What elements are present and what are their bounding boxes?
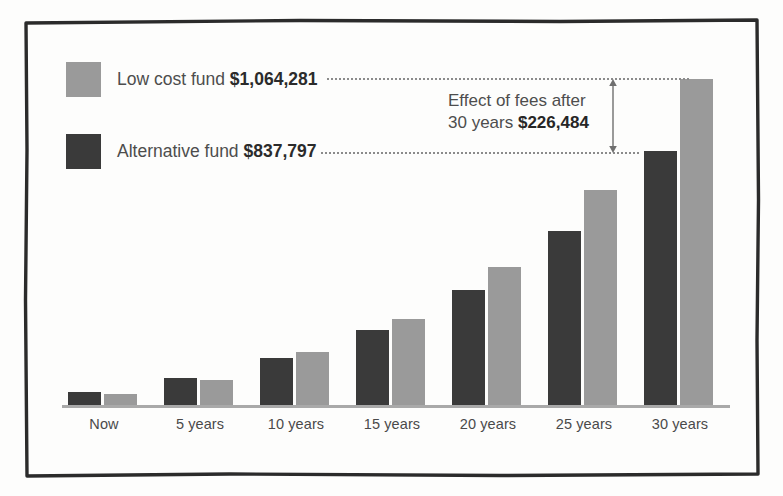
leader-line-low-cost <box>326 78 690 80</box>
bar-lowcost-15-years <box>392 319 425 405</box>
x-label-15-years: 15 years <box>344 416 440 432</box>
annotation-effect-of-fees: Effect of fees after 30 years $226,484 <box>448 90 589 135</box>
x-label-now: Now <box>56 416 152 432</box>
annotation-line-1: Effect of fees after <box>448 90 589 112</box>
chart-container: Now 5 years 10 years 15 years 20 years 2… <box>0 0 783 496</box>
leader-line-alternative <box>320 152 640 154</box>
bar-lowcost-25-years <box>584 190 617 405</box>
legend-item-alternative-fund: Alternative fund $837,797 <box>66 134 316 169</box>
legend-item-low-cost-fund: Low cost fund $1,064,281 <box>66 62 317 97</box>
legend-value-low-cost-fund: $1,064,281 <box>230 69 318 89</box>
bar-alternative-5-years <box>164 378 197 405</box>
x-axis-labels: Now 5 years 10 years 15 years 20 years 2… <box>40 416 745 442</box>
legend-swatch-low-cost-fund <box>66 62 101 97</box>
legend-swatch-alternative-fund <box>66 134 101 169</box>
legend-value-alternative-fund: $837,797 <box>243 141 316 161</box>
legend-name-low-cost-fund: Low cost fund <box>117 69 230 89</box>
legend-label-low-cost-fund: Low cost fund $1,064,281 <box>117 69 317 90</box>
bar-lowcost-5-years <box>200 380 233 405</box>
x-label-10-years: 10 years <box>248 416 344 432</box>
bar-alternative-now <box>68 392 101 405</box>
bar-lowcost-now <box>104 394 137 405</box>
bar-alternative-25-years <box>548 231 581 405</box>
bar-alternative-15-years <box>356 330 389 405</box>
annotation-line-2: 30 years $226,484 <box>448 112 589 134</box>
x-label-20-years: 20 years <box>440 416 536 432</box>
legend-label-alternative-fund: Alternative fund $837,797 <box>117 141 316 162</box>
annotation-value: $226,484 <box>518 113 589 132</box>
legend-name-alternative-fund: Alternative fund <box>117 141 243 161</box>
bar-alternative-10-years <box>260 358 293 405</box>
plot-area: Now 5 years 10 years 15 years 20 years 2… <box>40 34 745 462</box>
bar-lowcost-30-years <box>680 79 713 405</box>
bar-lowcost-20-years <box>488 267 521 405</box>
bar-alternative-20-years <box>452 290 485 405</box>
x-label-30-years: 30 years <box>632 416 728 432</box>
x-label-5-years: 5 years <box>152 416 248 432</box>
x-axis-baseline <box>62 405 730 408</box>
x-label-25-years: 25 years <box>536 416 632 432</box>
annotation-line-2-prefix: 30 years <box>448 113 518 132</box>
bar-alternative-30-years <box>644 151 677 405</box>
bar-lowcost-10-years <box>296 352 329 405</box>
